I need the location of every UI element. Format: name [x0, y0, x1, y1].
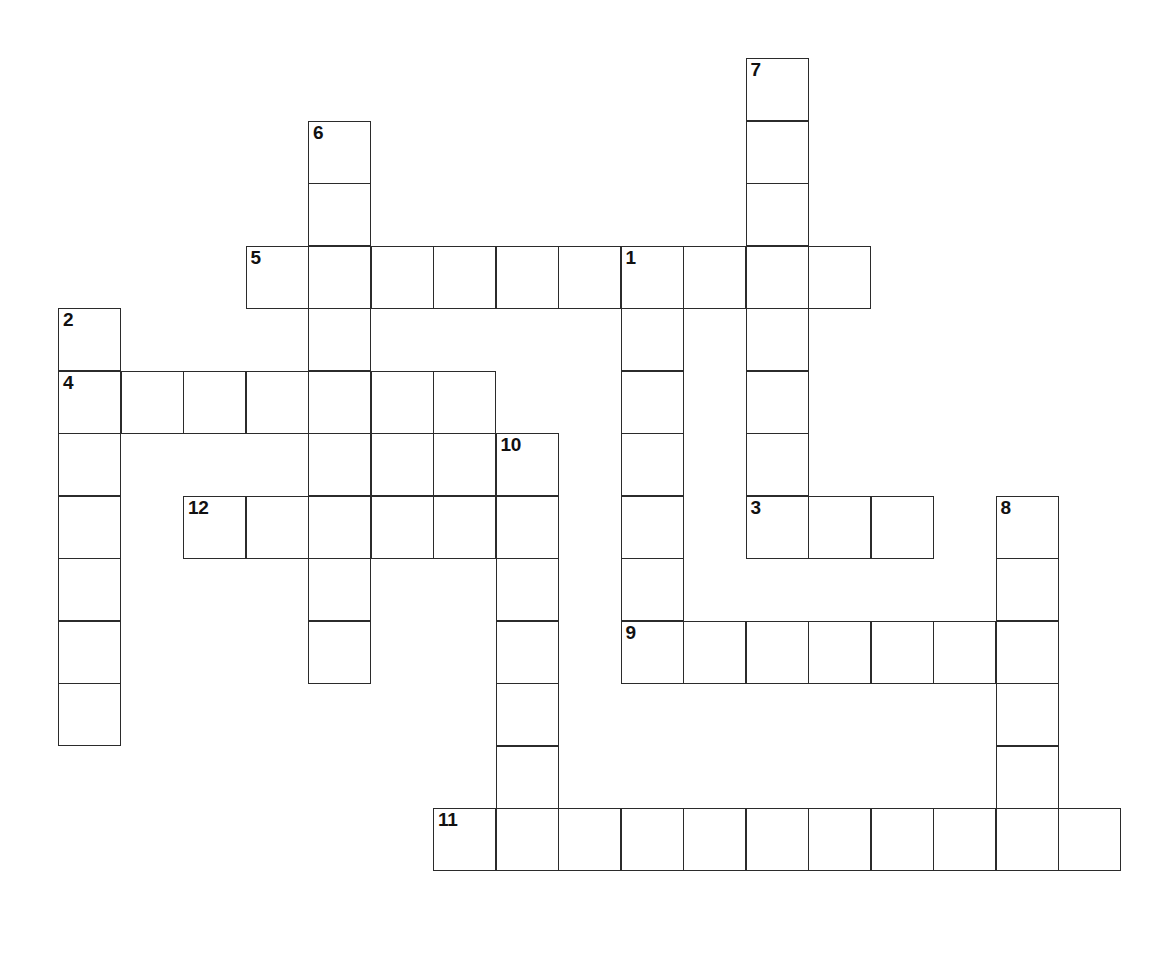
crossword-cell[interactable]: [371, 246, 434, 309]
cell-number-1: 1: [626, 248, 636, 268]
crossword-cell[interactable]: [433, 433, 496, 496]
crossword-cell[interactable]: [746, 621, 809, 684]
crossword-cell[interactable]: [808, 496, 871, 559]
crossword-cell[interactable]: [58, 433, 121, 496]
cell-number-2: 2: [63, 310, 73, 330]
crossword-cell[interactable]: [683, 621, 746, 684]
crossword-cell[interactable]: [308, 496, 371, 559]
crossword-cell[interactable]: [58, 558, 121, 621]
crossword-cell[interactable]: [308, 246, 371, 309]
crossword-cell[interactable]: [371, 496, 434, 559]
crossword-cell[interactable]: [746, 246, 809, 309]
crossword-cell[interactable]: [996, 621, 1059, 684]
crossword-cell[interactable]: [308, 558, 371, 621]
crossword-cell[interactable]: [121, 371, 184, 434]
crossword-cell[interactable]: 2: [58, 308, 121, 371]
crossword-cell[interactable]: [996, 683, 1059, 746]
crossword-cell[interactable]: [496, 808, 559, 871]
crossword-cell[interactable]: [183, 371, 246, 434]
crossword-cell[interactable]: [933, 808, 996, 871]
crossword-cell[interactable]: [246, 371, 309, 434]
crossword-puzzle: 765124101238911: [0, 0, 1168, 953]
cell-number-8: 8: [1001, 498, 1011, 518]
crossword-cell[interactable]: 6: [308, 121, 371, 184]
crossword-cell[interactable]: 7: [746, 58, 809, 121]
crossword-cell[interactable]: [433, 496, 496, 559]
cell-number-4: 4: [63, 373, 73, 393]
crossword-cell[interactable]: [621, 371, 684, 434]
cell-number-11: 11: [438, 810, 458, 830]
crossword-cell[interactable]: [58, 496, 121, 559]
crossword-cell[interactable]: [496, 496, 559, 559]
crossword-cell[interactable]: 1: [621, 246, 684, 309]
crossword-cell[interactable]: [746, 121, 809, 184]
crossword-cell[interactable]: [433, 371, 496, 434]
crossword-cell[interactable]: 8: [996, 496, 1059, 559]
crossword-cell[interactable]: [746, 308, 809, 371]
crossword-cell[interactable]: [371, 371, 434, 434]
crossword-cell[interactable]: [308, 308, 371, 371]
cell-number-5: 5: [251, 248, 261, 268]
crossword-cell[interactable]: [933, 621, 996, 684]
crossword-cell[interactable]: [308, 183, 371, 246]
crossword-cell[interactable]: [996, 746, 1059, 809]
crossword-cell[interactable]: [1058, 808, 1121, 871]
crossword-cell[interactable]: [996, 808, 1059, 871]
crossword-cell[interactable]: 5: [246, 246, 309, 309]
crossword-cell[interactable]: [496, 246, 559, 309]
crossword-cell[interactable]: 3: [746, 496, 809, 559]
crossword-cell[interactable]: [746, 433, 809, 496]
crossword-cell[interactable]: [621, 496, 684, 559]
crossword-cell[interactable]: [808, 621, 871, 684]
crossword-cell[interactable]: [308, 621, 371, 684]
cell-number-12: 12: [188, 498, 209, 518]
crossword-cell[interactable]: [871, 808, 934, 871]
crossword-cell[interactable]: [746, 183, 809, 246]
crossword-cell[interactable]: [746, 371, 809, 434]
crossword-cell[interactable]: [621, 808, 684, 871]
crossword-cell[interactable]: [808, 808, 871, 871]
crossword-cell[interactable]: [621, 308, 684, 371]
crossword-cell[interactable]: [308, 371, 371, 434]
crossword-cell[interactable]: [558, 246, 621, 309]
crossword-cell[interactable]: 10: [496, 433, 559, 496]
crossword-cell[interactable]: [683, 246, 746, 309]
crossword-cell[interactable]: 12: [183, 496, 246, 559]
crossword-cell[interactable]: [58, 683, 121, 746]
cell-number-3: 3: [751, 498, 761, 518]
crossword-cell[interactable]: [621, 433, 684, 496]
crossword-cell[interactable]: [308, 433, 371, 496]
crossword-cell[interactable]: [808, 246, 871, 309]
crossword-cell[interactable]: [246, 496, 309, 559]
crossword-cell[interactable]: [558, 808, 621, 871]
crossword-cell[interactable]: [871, 621, 934, 684]
crossword-cell[interactable]: [496, 746, 559, 809]
crossword-cell[interactable]: [871, 496, 934, 559]
cell-number-6: 6: [313, 123, 323, 143]
crossword-cell[interactable]: [996, 558, 1059, 621]
crossword-cell[interactable]: [433, 246, 496, 309]
cell-number-7: 7: [751, 60, 761, 80]
crossword-cell[interactable]: [496, 621, 559, 684]
crossword-cell[interactable]: 4: [58, 371, 121, 434]
crossword-cell[interactable]: [621, 558, 684, 621]
cell-number-10: 10: [501, 435, 522, 455]
cell-number-9: 9: [626, 623, 636, 643]
crossword-cell[interactable]: 9: [621, 621, 684, 684]
crossword-cell[interactable]: [496, 683, 559, 746]
crossword-grid[interactable]: 765124101238911: [0, 0, 1168, 953]
crossword-cell[interactable]: [58, 621, 121, 684]
crossword-cell[interactable]: [683, 808, 746, 871]
crossword-cell[interactable]: [496, 558, 559, 621]
crossword-cell[interactable]: [371, 433, 434, 496]
crossword-cell[interactable]: 11: [433, 808, 496, 871]
crossword-cell[interactable]: [746, 808, 809, 871]
